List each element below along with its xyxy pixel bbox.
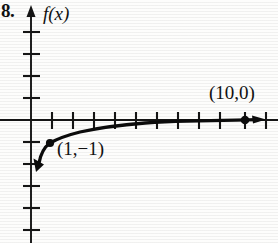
y-axis-arrowhead xyxy=(27,5,36,17)
point-label-10-0: (10,0) xyxy=(209,83,255,102)
graph-svg xyxy=(0,0,278,243)
point-label-1-minus1: (1,−1) xyxy=(57,139,104,158)
point-marker-b xyxy=(241,116,250,125)
function-axis-label: f(x) xyxy=(43,4,69,23)
curve-end-arrowhead xyxy=(252,115,266,123)
problem-number: 8. xyxy=(1,1,14,20)
figure-canvas: 8. f(x) (1,−1) (10,0) xyxy=(0,0,278,243)
point-marker-a xyxy=(46,139,54,147)
